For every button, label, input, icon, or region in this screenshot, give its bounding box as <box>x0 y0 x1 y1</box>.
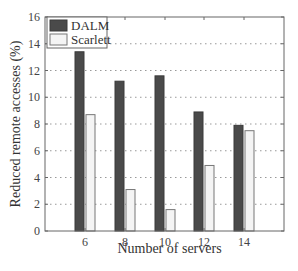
bar-chart: 024681012141668101214Number of serversRe… <box>0 0 298 271</box>
x-axis-title: Number of servers <box>117 241 221 256</box>
legend-swatch-scarlett <box>50 34 67 45</box>
y-tick-label: 12 <box>28 64 40 78</box>
y-tick-label: 2 <box>34 197 40 211</box>
y-tick-label: 0 <box>34 224 40 238</box>
y-axis-title: Reduced remote accesses (%) <box>8 40 24 207</box>
bar-dalm <box>194 112 203 231</box>
bar-dalm <box>234 125 243 231</box>
y-tick-label: 10 <box>28 90 40 104</box>
bar-scarlett <box>245 131 254 231</box>
y-tick-label: 14 <box>28 37 40 51</box>
bar-scarlett <box>86 115 95 231</box>
bar-scarlett <box>205 165 214 231</box>
y-tick-label: 16 <box>28 10 40 24</box>
bar-scarlett <box>166 210 175 231</box>
bar-scarlett <box>126 190 135 231</box>
legend-label-dalm: DALM <box>71 18 110 33</box>
y-tick-label: 4 <box>34 171 40 185</box>
bar-dalm <box>115 81 124 231</box>
legend-swatch-dalm <box>50 20 67 31</box>
bar-dalm <box>155 76 164 231</box>
y-tick-label: 8 <box>34 117 40 131</box>
y-tick-label: 6 <box>34 144 40 158</box>
x-tick-label: 14 <box>238 235 250 249</box>
bar-dalm <box>75 52 84 231</box>
x-tick-label: 6 <box>82 235 88 249</box>
legend-label-scarlett: Scarlett <box>71 32 111 47</box>
